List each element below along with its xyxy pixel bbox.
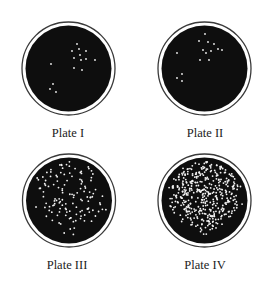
colony-dot xyxy=(183,177,185,179)
colony-dot xyxy=(172,209,174,211)
colony-dot xyxy=(240,186,242,188)
colony-dot xyxy=(221,223,223,225)
colony-dot xyxy=(207,178,209,180)
colony-dot xyxy=(184,190,186,192)
colony-dot xyxy=(191,197,193,199)
colony-dot xyxy=(80,188,82,190)
colony-dot xyxy=(220,179,222,181)
colony-dot xyxy=(48,186,50,188)
colony-dot xyxy=(58,187,60,189)
colony-dot xyxy=(57,214,59,216)
colony-dot xyxy=(63,232,65,234)
agar-surface xyxy=(162,26,248,112)
colony-dot xyxy=(105,209,107,211)
colony-dot xyxy=(184,187,186,189)
colony-dot xyxy=(222,195,224,197)
colony-dot xyxy=(211,228,213,230)
colony-dot xyxy=(191,168,193,170)
colony-dot xyxy=(185,193,187,195)
colony-dot xyxy=(187,173,189,175)
colony-dot xyxy=(215,210,217,212)
colony-dot xyxy=(178,179,180,181)
colony-dot xyxy=(225,169,227,171)
colony-dot xyxy=(178,174,180,176)
colony-dot xyxy=(199,210,201,212)
colony-dot xyxy=(182,191,184,193)
colony-dot xyxy=(195,173,197,175)
colony-dot xyxy=(199,181,201,183)
colony-dot xyxy=(90,180,92,182)
colony-dot xyxy=(42,176,44,178)
colony-dot xyxy=(189,188,191,190)
colony-dot xyxy=(85,187,87,189)
colony-dot xyxy=(94,59,96,61)
colony-dot xyxy=(220,194,222,196)
colony-dot xyxy=(212,175,214,177)
colony-dot xyxy=(221,215,223,217)
colony-dot xyxy=(211,184,213,186)
colony-dot xyxy=(175,195,177,197)
colony-dot xyxy=(202,208,204,210)
colony-dot xyxy=(180,204,182,206)
colony-dot xyxy=(182,174,184,176)
colony-dot xyxy=(216,178,218,180)
colony-dot xyxy=(48,210,50,212)
colony-dot xyxy=(190,203,192,205)
colony-dot xyxy=(90,196,92,198)
petri-dish-plate-4 xyxy=(158,154,251,247)
colony-dot xyxy=(234,178,236,180)
colony-dot xyxy=(205,205,207,207)
colony-dot xyxy=(87,166,89,168)
colony-dot xyxy=(202,49,204,51)
colony-dot xyxy=(217,207,219,209)
colony-dot xyxy=(202,196,204,198)
colony-dot xyxy=(187,171,189,173)
colony-dot xyxy=(191,185,193,187)
colony-dot xyxy=(217,218,219,220)
colony-dot xyxy=(177,185,179,187)
colony-dot xyxy=(195,182,197,184)
colony-dot xyxy=(179,214,181,216)
colony-dot xyxy=(205,227,207,229)
colony-dot xyxy=(188,204,190,206)
colony-dot xyxy=(233,207,235,209)
colony-dot xyxy=(204,202,206,204)
colony-dot xyxy=(210,171,212,173)
colony-dot xyxy=(236,204,238,206)
colony-dot xyxy=(102,195,104,197)
colony-dot xyxy=(197,197,199,199)
colony-dot xyxy=(172,187,174,189)
colony-dot xyxy=(71,50,73,52)
colony-dot xyxy=(178,176,180,178)
colony-dot xyxy=(173,178,175,180)
colony-dot xyxy=(196,182,198,184)
colony-dot xyxy=(202,212,204,214)
colony-dot xyxy=(60,223,62,225)
colony-dot xyxy=(65,203,67,205)
colony-dot xyxy=(50,176,52,178)
colony-dot xyxy=(187,213,189,215)
colony-dot xyxy=(86,196,88,198)
colony-dot xyxy=(70,217,72,219)
colony-dot xyxy=(215,192,217,194)
colony-dot xyxy=(212,218,214,220)
colony-dot xyxy=(203,233,205,235)
colony-dot xyxy=(187,217,189,219)
colony-dot xyxy=(191,211,193,213)
colony-dot xyxy=(212,207,214,209)
colony-dot xyxy=(43,191,45,193)
colony-dot xyxy=(190,219,192,221)
colony-dot xyxy=(81,181,83,183)
colony-dot xyxy=(195,214,197,216)
colony-dot xyxy=(81,173,83,175)
colony-dot xyxy=(84,185,86,187)
colony-dot xyxy=(52,205,54,207)
colony-dot xyxy=(61,199,63,201)
colony-dot xyxy=(213,188,215,190)
colony-dot xyxy=(175,179,177,181)
colony-dot xyxy=(227,182,229,184)
colony-dot xyxy=(76,43,78,45)
colony-dot xyxy=(98,211,100,213)
colony-dot xyxy=(207,41,209,43)
colony-dot xyxy=(198,40,200,42)
